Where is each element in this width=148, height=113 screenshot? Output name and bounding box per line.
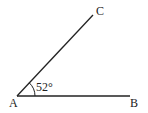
angle-diagram: 52° A B C xyxy=(0,0,148,113)
point-label-b: B xyxy=(130,96,138,110)
diagram-svg: 52° A B C xyxy=(0,0,148,113)
point-label-c: C xyxy=(96,4,104,18)
point-label-a: A xyxy=(9,96,18,110)
angle-label: 52° xyxy=(36,80,53,94)
segment-ac xyxy=(17,15,93,96)
angle-arc xyxy=(29,83,35,96)
